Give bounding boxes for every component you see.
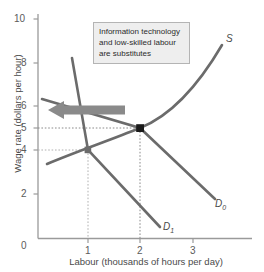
- wage-labour-chart: 10 8 6 5 4 2 0 1 2 3 Wage rate (dollars …: [0, 0, 264, 272]
- annotation-line-2: and low-skilled labour: [99, 37, 185, 48]
- x-tick-label-3: 3: [190, 245, 196, 256]
- demand-curve-d1: [72, 58, 160, 227]
- y-axis-title: Wage rate (dollars per hour): [12, 34, 23, 194]
- shift-arrow-icon: [48, 101, 125, 119]
- curve-label-supply: S: [226, 33, 233, 44]
- curve-label-d1-subscript: 1: [170, 227, 174, 234]
- y-tick-label-10: 10: [14, 13, 25, 24]
- equilibrium-marker-original: [136, 124, 144, 132]
- annotation-line-3: are substitutes: [99, 48, 185, 59]
- x-tick-label-1: 1: [85, 245, 91, 256]
- x-tick-label-2: 2: [137, 245, 143, 256]
- curve-label-demand-new: D1: [163, 221, 174, 234]
- x-axis-title: Labour (thousands of hours per day): [30, 256, 262, 267]
- annotation-line-1: Information technology: [99, 26, 185, 37]
- annotation-substitutes-note: Information technology and low-skilled l…: [93, 22, 190, 64]
- curve-label-demand-original: D0: [215, 198, 226, 211]
- y-tick-label-0: 0: [21, 240, 27, 251]
- curve-label-d0-subscript: 0: [222, 204, 226, 211]
- equilibrium-marker-new: [85, 147, 92, 154]
